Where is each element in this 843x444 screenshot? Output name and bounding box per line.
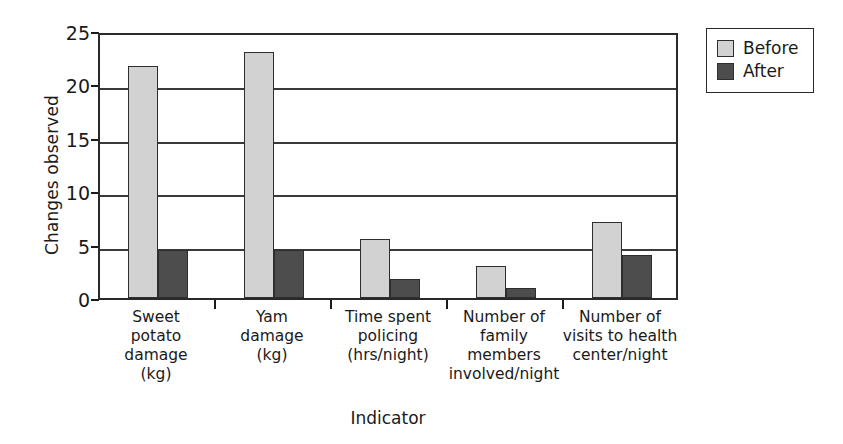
y-tick-label: 5 xyxy=(52,237,90,256)
legend-label-after: After xyxy=(743,63,784,80)
x-axis-title: Indicator xyxy=(98,408,678,428)
y-tick-label: 15 xyxy=(52,130,90,149)
x-category-label-0: Sweet potato damage (kg) xyxy=(92,308,220,384)
bar-before-4 xyxy=(592,222,622,298)
y-tick-label: 10 xyxy=(52,184,90,203)
bar-before-0 xyxy=(128,66,158,298)
chart-legend: Before After xyxy=(706,28,814,93)
legend-item-before: Before xyxy=(717,37,799,60)
bar-after-2 xyxy=(390,279,420,298)
plot-area xyxy=(98,33,678,300)
bar-after-1 xyxy=(274,250,304,298)
bar-chart-figure: Changes observed 0510152025 Sweet potato… xyxy=(0,0,843,444)
x-category-label-3: Number of family members involved/night xyxy=(440,308,568,384)
x-axis-category-labels: Sweet potato damage (kg)Yam damage (kg)T… xyxy=(98,308,678,398)
y-tick-label: 0 xyxy=(52,291,90,310)
legend-swatch-after-icon xyxy=(717,63,734,80)
y-axis-tick-labels: 0510152025 xyxy=(52,33,90,300)
y-tick-label: 25 xyxy=(52,24,90,43)
bar-after-3 xyxy=(506,288,536,298)
legend-label-before: Before xyxy=(743,40,799,57)
x-category-label-2: Time spent policing (hrs/night) xyxy=(324,308,452,365)
y-tick-label: 20 xyxy=(52,77,90,96)
x-category-label-4: Number of visits to health center/night xyxy=(556,308,684,365)
bar-after-0 xyxy=(158,250,188,298)
bar-after-4 xyxy=(622,255,652,298)
bar-before-3 xyxy=(476,266,506,298)
x-category-label-1: Yam damage (kg) xyxy=(208,308,336,365)
bar-before-2 xyxy=(360,239,390,298)
bar-series-container xyxy=(100,35,676,298)
legend-swatch-before-icon xyxy=(717,40,734,57)
legend-item-after: After xyxy=(717,60,799,83)
bar-before-1 xyxy=(244,52,274,298)
